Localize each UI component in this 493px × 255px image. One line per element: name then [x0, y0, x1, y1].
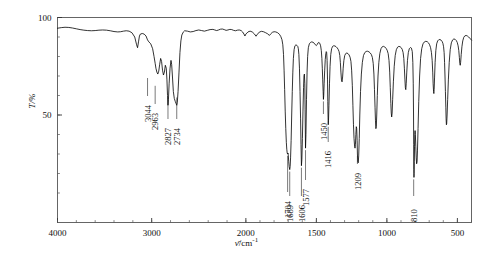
- y-axis-title: T/%: [27, 81, 37, 121]
- ir-spectrum-figure: 40003000200015001000500 50100 3044296328…: [0, 0, 493, 255]
- x-axis-unit: /cm: [239, 238, 253, 248]
- peak-label: 1689: [285, 205, 295, 222]
- transmittance-curve: [58, 27, 472, 177]
- y-tick-label: 50: [43, 110, 53, 120]
- spectrum-line: [58, 27, 472, 177]
- peak-label: 1209: [353, 173, 363, 190]
- peak-label: 1606: [297, 205, 307, 222]
- y-tick-label: 100: [38, 13, 52, 23]
- peak-label: 1577: [301, 189, 311, 206]
- peak-label: 1450: [319, 123, 329, 140]
- y-tick-labels: 50100: [38, 13, 52, 121]
- peak-label: 2963: [150, 113, 160, 130]
- peak-label: 2734: [172, 127, 182, 145]
- x-axis-exponent: -1: [252, 236, 258, 244]
- spectrum-plot: 40003000200015001000500 50100 3044296328…: [0, 0, 493, 255]
- peak-label: 810: [409, 209, 419, 222]
- x-axis-title: ν̄/cm-1: [0, 236, 493, 248]
- peak-label: 1416: [323, 151, 333, 168]
